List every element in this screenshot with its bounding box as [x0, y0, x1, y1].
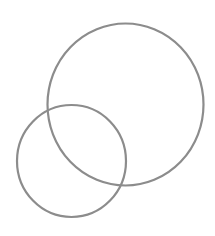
- venn-diagram: [0, 0, 215, 236]
